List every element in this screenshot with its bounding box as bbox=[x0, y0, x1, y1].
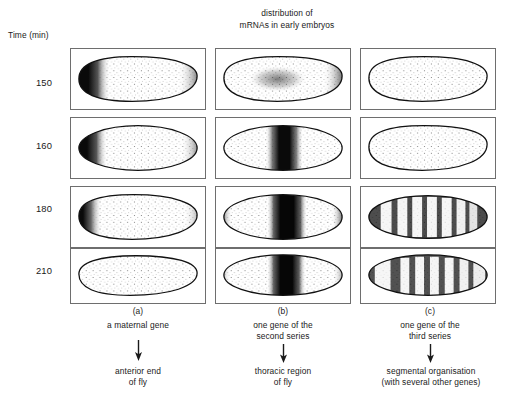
time-tick-150: 150 bbox=[22, 77, 66, 88]
embryo-c-180 bbox=[361, 187, 495, 247]
embryo-a-150 bbox=[71, 49, 205, 109]
caption-c-gene-line1: one gene of the bbox=[363, 320, 497, 331]
embryo-a-160 bbox=[71, 118, 205, 178]
figure-title-line1: distribution of bbox=[212, 8, 362, 20]
outcome-c-line1: segmental organisation bbox=[361, 366, 501, 377]
caption-a-letter: (a) bbox=[78, 306, 198, 317]
down-arrow-icon bbox=[278, 344, 289, 364]
panel-b-210 bbox=[215, 248, 351, 304]
embryo-mrna-figure: distribution of mRNAs in early embryos T… bbox=[0, 0, 507, 401]
outcome-c-line2: (with several other genes) bbox=[361, 377, 501, 388]
caption-b-letter: (b) bbox=[223, 306, 343, 317]
caption-b-gene-line1: one gene of the bbox=[223, 320, 343, 331]
embryo-b-150 bbox=[216, 49, 350, 109]
outcome-b-line2: of fly bbox=[223, 377, 343, 388]
down-arrow-icon bbox=[133, 340, 144, 362]
figure-title-line2: mRNAs in early embryos bbox=[212, 20, 362, 32]
caption-a: (a) a maternal gene bbox=[78, 306, 198, 331]
embryo-b-180 bbox=[216, 187, 350, 247]
arrow-b bbox=[223, 344, 343, 364]
panel-a-180 bbox=[70, 186, 206, 248]
panel-c-150 bbox=[360, 48, 496, 110]
time-tick-180: 180 bbox=[22, 203, 66, 214]
panel-b-180 bbox=[215, 186, 351, 248]
embryo-c-160 bbox=[361, 118, 495, 178]
panel-b-160 bbox=[215, 117, 351, 179]
time-tick-160: 160 bbox=[22, 140, 66, 151]
time-tick-210: 210 bbox=[22, 265, 66, 276]
panel-c-160 bbox=[360, 117, 496, 179]
caption-c-letter: (c) bbox=[363, 306, 497, 317]
arrow-a bbox=[78, 340, 198, 362]
panel-c-210 bbox=[360, 248, 496, 304]
embryo-b-160 bbox=[216, 118, 350, 178]
outcome-c: segmental organisation (with several oth… bbox=[361, 366, 501, 388]
outcome-b-line1: thoracic region bbox=[223, 366, 343, 377]
outcome-b: thoracic region of fly bbox=[223, 366, 343, 388]
outcome-a: anterior end of fly bbox=[78, 366, 198, 388]
embryo-a-210 bbox=[71, 249, 205, 303]
caption-c-gene-line2: third series bbox=[363, 331, 497, 342]
embryo-b-210 bbox=[216, 249, 350, 303]
embryo-a-180 bbox=[71, 187, 205, 247]
embryo-c-210 bbox=[361, 249, 495, 303]
caption-b: (b) one gene of the second series bbox=[223, 306, 343, 342]
embryo-c-150 bbox=[361, 49, 495, 109]
caption-b-gene-line2: second series bbox=[223, 331, 343, 342]
panel-b-150 bbox=[215, 48, 351, 110]
caption-c: (c) one gene of the third series bbox=[363, 306, 497, 342]
panel-a-210 bbox=[70, 248, 206, 304]
figure-title: distribution of mRNAs in early embryos bbox=[212, 8, 362, 31]
panel-a-150 bbox=[70, 48, 206, 110]
outcome-a-line1: anterior end bbox=[78, 366, 198, 377]
panel-c-180 bbox=[360, 186, 496, 248]
arrow-c bbox=[363, 344, 497, 364]
down-arrow-icon bbox=[425, 344, 436, 364]
time-axis-label: Time (min) bbox=[8, 30, 49, 40]
outcome-a-line2: of fly bbox=[78, 377, 198, 388]
panel-a-160 bbox=[70, 117, 206, 179]
caption-a-gene-line1: a maternal gene bbox=[78, 320, 198, 331]
